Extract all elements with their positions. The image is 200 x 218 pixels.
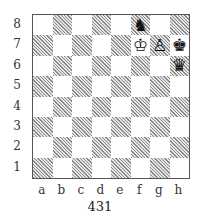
square-f4 xyxy=(131,97,151,117)
square-b8 xyxy=(53,15,73,35)
chess-board: ♞♔♙♚♛ xyxy=(32,14,190,179)
square-f3 xyxy=(131,117,151,137)
square-h3 xyxy=(170,117,190,137)
square-a1 xyxy=(33,158,53,178)
square-g5 xyxy=(150,76,170,96)
square-b2 xyxy=(53,137,73,157)
square-d5 xyxy=(92,76,112,96)
white-pawn-icon: ♙ xyxy=(152,37,167,54)
file-label-b: b xyxy=(52,183,72,197)
square-d6 xyxy=(92,56,112,76)
square-c2 xyxy=(72,137,92,157)
square-h2 xyxy=(170,137,190,157)
square-f2 xyxy=(131,137,151,157)
square-a6 xyxy=(33,56,53,76)
square-b4 xyxy=(53,97,73,117)
square-c6 xyxy=(72,56,92,76)
square-b7 xyxy=(53,35,73,55)
rank-labels: 8 7 6 5 4 3 2 1 xyxy=(10,14,24,177)
square-e3 xyxy=(111,117,131,137)
square-f7: ♔ xyxy=(131,35,151,55)
square-e5 xyxy=(111,76,131,96)
white-king-icon: ♔ xyxy=(133,37,148,54)
square-g4 xyxy=(150,97,170,117)
square-a4 xyxy=(33,97,53,117)
file-label-c: c xyxy=(71,183,91,197)
rank-label-1: 1 xyxy=(10,157,24,177)
square-g2 xyxy=(150,137,170,157)
square-d2 xyxy=(92,137,112,157)
square-e4 xyxy=(111,97,131,117)
square-c3 xyxy=(72,117,92,137)
square-d4 xyxy=(92,97,112,117)
square-a2 xyxy=(33,137,53,157)
square-h4 xyxy=(170,97,190,117)
square-b6 xyxy=(53,56,73,76)
black-queen-icon: ♛ xyxy=(172,57,187,74)
file-label-d: d xyxy=(91,183,111,197)
square-f6 xyxy=(131,56,151,76)
black-knight-icon: ♞ xyxy=(133,17,148,34)
square-c8 xyxy=(72,15,92,35)
square-c7 xyxy=(72,35,92,55)
rank-label-2: 2 xyxy=(10,136,24,156)
file-label-f: f xyxy=(130,183,150,197)
square-h1 xyxy=(170,158,190,178)
square-d8 xyxy=(92,15,112,35)
file-labels: a b c d e f g h xyxy=(32,183,188,197)
square-g1 xyxy=(150,158,170,178)
rank-label-8: 8 xyxy=(10,14,24,34)
square-h7: ♚ xyxy=(170,35,190,55)
square-b3 xyxy=(53,117,73,137)
file-label-g: g xyxy=(149,183,169,197)
file-label-h: h xyxy=(169,183,189,197)
square-b1 xyxy=(53,158,73,178)
diagram-caption: 431 xyxy=(0,199,200,214)
rank-label-5: 5 xyxy=(10,75,24,95)
square-f1 xyxy=(131,158,151,178)
square-a3 xyxy=(33,117,53,137)
square-g6 xyxy=(150,56,170,76)
square-e7 xyxy=(111,35,131,55)
square-a7 xyxy=(33,35,53,55)
square-h8 xyxy=(170,15,190,35)
file-label-a: a xyxy=(32,183,52,197)
square-e1 xyxy=(111,158,131,178)
square-c4 xyxy=(72,97,92,117)
square-c1 xyxy=(72,158,92,178)
square-h5 xyxy=(170,76,190,96)
square-c5 xyxy=(72,76,92,96)
square-g8 xyxy=(150,15,170,35)
square-d7 xyxy=(92,35,112,55)
square-d3 xyxy=(92,117,112,137)
square-a8 xyxy=(33,15,53,35)
black-king-icon: ♚ xyxy=(172,37,187,54)
square-e6 xyxy=(111,56,131,76)
square-h6: ♛ xyxy=(170,56,190,76)
rank-label-6: 6 xyxy=(10,55,24,75)
square-f8: ♞ xyxy=(131,15,151,35)
square-b5 xyxy=(53,76,73,96)
square-a5 xyxy=(33,76,53,96)
rank-label-7: 7 xyxy=(10,34,24,54)
file-label-e: e xyxy=(110,183,130,197)
square-d1 xyxy=(92,158,112,178)
square-e2 xyxy=(111,137,131,157)
rank-label-4: 4 xyxy=(10,96,24,116)
square-f5 xyxy=(131,76,151,96)
square-e8 xyxy=(111,15,131,35)
square-g3 xyxy=(150,117,170,137)
rank-label-3: 3 xyxy=(10,116,24,136)
square-g7: ♙ xyxy=(150,35,170,55)
